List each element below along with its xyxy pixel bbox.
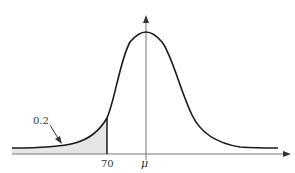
normal-curve-diagram: 0.2 70 μ — [0, 0, 295, 173]
annotation-arrowhead-icon — [55, 136, 62, 144]
x-axis-arrow-icon — [283, 151, 291, 157]
bell-curve — [12, 32, 278, 148]
y-axis-arrow-icon — [143, 15, 149, 23]
cutoff-label: 70 — [101, 158, 114, 169]
mean-label: μ — [141, 157, 148, 170]
area-label: 0.2 — [33, 115, 49, 126]
